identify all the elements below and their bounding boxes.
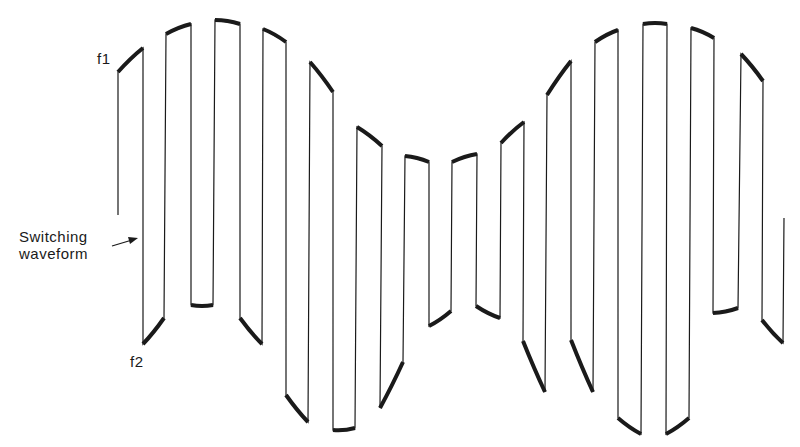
switching-waveform-label: Switching waveform [19,228,88,262]
arrowhead-icon [128,237,138,244]
f1-envelope-segment [118,48,143,72]
switching-waveform-diagram [0,0,800,447]
f1-envelope-segment [691,28,714,38]
f2-envelope-segment [571,340,593,392]
switching-label-line1: Switching [19,228,88,245]
f1-envelope-segment [166,24,191,34]
f2-envelope-segment [286,395,308,422]
f2-envelope-segment [380,362,403,408]
f2-label: f2 [130,353,144,370]
f1-envelope-segment [547,61,571,95]
f2-envelope-segment [713,308,738,313]
f1-envelope-segment [643,23,667,24]
f2-envelope-segment [191,305,213,306]
f2-envelope-segment [523,341,545,392]
envelope-segments [118,20,783,434]
f2-envelope-segment [333,428,355,430]
f2-envelope-segment [429,311,451,326]
f1-envelope-segment [215,20,240,24]
pointer-arrow [112,237,138,246]
switching-waveform-trace [118,20,784,434]
f1-label: f1 [97,50,111,67]
switching-label-line2: waveform [19,245,88,262]
f2-envelope-segment [666,418,689,434]
f1-envelope-segment [741,54,763,81]
f2-envelope-segment [240,318,262,344]
f2-envelope-segment [762,320,783,343]
f1-envelope-segment [405,156,429,162]
f2-envelope-segment [143,318,164,344]
f1-envelope-segment [310,62,333,92]
f2-envelope-segment [618,418,641,434]
f1-envelope-segment [452,154,477,162]
f1-envelope-segment [263,29,286,42]
f2-envelope-segment [476,306,500,318]
f1-envelope-segment [357,127,382,146]
f1-envelope-segment [595,30,618,42]
f1-envelope-segment [501,122,524,143]
